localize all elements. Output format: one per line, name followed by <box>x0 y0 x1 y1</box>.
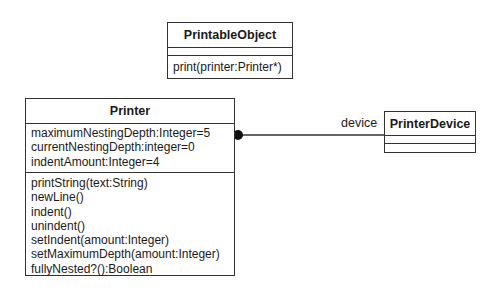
class-name: Printer <box>26 99 234 124</box>
operation: print(printer:Printer*) <box>173 60 292 75</box>
class-printer-device[interactable]: PrinterDevice <box>384 111 476 153</box>
attribute: currentNestingDepth:integer=0 <box>31 140 234 154</box>
operation: indent() <box>31 205 234 219</box>
operation: printString(text:String) <box>31 176 234 190</box>
operations-section: printString(text:String) newLine() inden… <box>26 173 234 276</box>
operation: unindent() <box>31 219 234 233</box>
operation: newLine() <box>31 190 234 204</box>
operation: setIndent(amount:Integer) <box>31 233 234 247</box>
operations-section <box>385 144 475 152</box>
association-role-label: device <box>341 116 377 130</box>
attributes-section: maximumNestingDepth:Integer=5 currentNes… <box>26 124 234 173</box>
class-printer[interactable]: Printer maximumNestingDepth:Integer=5 cu… <box>25 98 235 276</box>
operations-section: print(printer:Printer*) <box>168 56 292 75</box>
attributes-section <box>385 136 475 144</box>
class-name: PrinterDevice <box>385 112 475 136</box>
class-printable-object[interactable]: PrintableObject print(printer:Printer*) <box>167 22 293 79</box>
attribute: indentAmount:Integer=4 <box>31 155 234 169</box>
operation: setMaximumDepth(amount:Integer) <box>31 247 234 261</box>
operation: fullyNested?():Boolean <box>31 262 234 276</box>
attributes-section <box>168 48 292 56</box>
attribute: maximumNestingDepth:Integer=5 <box>31 126 234 140</box>
class-name: PrintableObject <box>168 23 292 48</box>
